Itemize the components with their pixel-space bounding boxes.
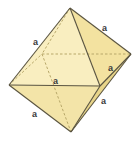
edge-label-top-left: a bbox=[33, 37, 39, 47]
edge-label-bottom-left: a bbox=[32, 109, 38, 119]
edge-label-right-lower: a bbox=[101, 96, 107, 106]
octahedron-figure: a a a a a a bbox=[0, 0, 138, 142]
edge-label-top-right: a bbox=[102, 23, 108, 33]
octahedron-diagram: a a a a a a bbox=[0, 0, 138, 142]
